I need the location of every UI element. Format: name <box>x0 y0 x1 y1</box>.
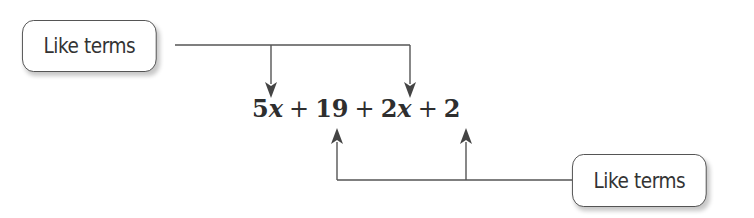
plus-operator: + <box>418 95 438 123</box>
like-terms-diagram: Like terms 5x+19+2x+2 Like terms <box>0 0 754 218</box>
term-coefficient: 5 <box>252 94 269 123</box>
like-terms-label-bottom: Like terms <box>572 154 707 207</box>
arrow-to-19 <box>331 128 343 180</box>
term-constant: 19 <box>315 94 348 123</box>
arrow-to-2 <box>460 128 472 180</box>
plus-operator: + <box>289 95 309 123</box>
like-terms-label-bottom-text: Like terms <box>593 169 685 193</box>
algebraic-expression: 5x+19+2x+2 <box>252 94 460 123</box>
term-2x: 2x <box>381 94 412 123</box>
term-constant: 2 <box>444 94 461 123</box>
like-terms-label-top-text: Like terms <box>43 34 135 58</box>
term-19: 19 <box>315 94 348 123</box>
term-5x: 5x <box>252 94 283 123</box>
arrow-to-5x <box>265 45 277 98</box>
term-coefficient: 2 <box>381 94 398 123</box>
plus-operator: + <box>355 95 375 123</box>
term-2: 2 <box>444 94 461 123</box>
term-variable: x <box>269 94 283 123</box>
like-terms-label-top: Like terms <box>22 20 157 72</box>
arrow-to-2x <box>404 45 416 98</box>
term-variable: x <box>397 94 411 123</box>
